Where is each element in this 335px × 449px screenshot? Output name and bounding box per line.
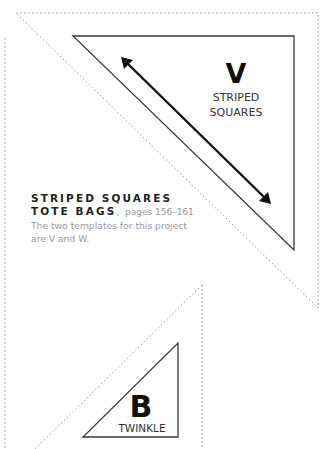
caption-body-line1: The two templates for this project — [31, 219, 231, 232]
caption-body-line2: are V and W. — [31, 232, 231, 245]
template-v-name-line2: SQUARES — [210, 106, 263, 119]
template-b-name: TWINKLE — [117, 422, 165, 434]
caption-separator: , — [116, 207, 119, 217]
caption-title-line2: TOTE BAGS — [31, 205, 116, 217]
template-v-letter: V — [226, 58, 247, 89]
project-caption: STRIPED SQUARES TOTE BAGS, pages 156–161… — [31, 192, 231, 245]
template-b-letter: B — [130, 389, 153, 424]
template-v-name-line1: STRIPED — [213, 91, 260, 104]
caption-title-line2-row: TOTE BAGS, pages 156–161 — [31, 205, 231, 219]
caption-title-line1: STRIPED SQUARES — [31, 192, 231, 205]
caption-pages: pages 156–161 — [125, 207, 194, 217]
